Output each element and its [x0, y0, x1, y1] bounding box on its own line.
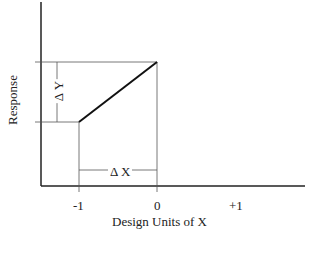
y-axis-label: Response [5, 75, 21, 125]
x-axis-label: Design Units of X [112, 214, 207, 230]
x-tick-minus1: -1 [73, 198, 84, 214]
delta-y-label: Δ Y [51, 79, 67, 103]
response-line [79, 62, 157, 122]
delta-x-label: Δ X [108, 164, 132, 180]
x-tick-zero: 0 [154, 198, 161, 214]
x-tick-plus1: +1 [229, 198, 243, 214]
